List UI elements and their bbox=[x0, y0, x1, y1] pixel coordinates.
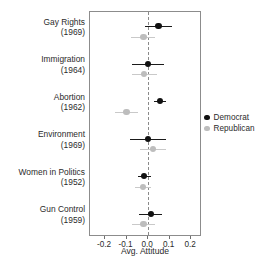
legend-marker-republican bbox=[204, 126, 210, 132]
legend: Democrat Republican bbox=[204, 112, 255, 134]
x-tick-1 bbox=[126, 236, 127, 239]
category-name: Women in Politics bbox=[19, 167, 85, 177]
category-year: (1969) bbox=[44, 27, 85, 37]
category-label-gay-rights: Gay Rights(1969) bbox=[44, 17, 85, 38]
category-year: (1964) bbox=[41, 65, 85, 75]
x-axis-label: Avg. Attitude bbox=[89, 246, 201, 256]
x-tick-0 bbox=[104, 236, 105, 239]
category-name: Immigration bbox=[41, 54, 85, 64]
plot-area bbox=[89, 11, 201, 236]
category-label-women-in-politics: Women in Politics(1952) bbox=[19, 167, 85, 188]
legend-marker-democrat bbox=[204, 115, 210, 121]
data-point-democrat-5[interactable] bbox=[148, 211, 154, 217]
category-label-environment: Environment(1969) bbox=[38, 129, 85, 150]
category-year: (1962) bbox=[54, 102, 85, 112]
category-year: (1952) bbox=[19, 177, 85, 187]
data-point-republican-2[interactable] bbox=[123, 109, 129, 115]
data-point-republican-0[interactable] bbox=[140, 34, 146, 40]
x-tick-4 bbox=[190, 236, 191, 239]
data-point-democrat-3[interactable] bbox=[145, 136, 151, 142]
data-point-democrat-4[interactable] bbox=[141, 173, 147, 179]
category-year: (1969) bbox=[38, 140, 85, 150]
data-point-republican-4[interactable] bbox=[140, 184, 146, 190]
zero-reference-line bbox=[148, 12, 149, 235]
category-name: Abortion bbox=[54, 92, 85, 102]
category-name: Environment bbox=[38, 129, 85, 139]
category-label-gun-control: Gun Control(1959) bbox=[40, 204, 85, 225]
data-point-democrat-1[interactable] bbox=[145, 61, 151, 67]
data-point-democrat-0[interactable] bbox=[155, 23, 161, 29]
x-tick-3 bbox=[169, 236, 170, 239]
category-label-abortion: Abortion(1962) bbox=[54, 92, 85, 113]
data-point-democrat-2[interactable] bbox=[157, 98, 163, 104]
legend-label-republican: Republican bbox=[214, 123, 255, 134]
category-year: (1959) bbox=[40, 215, 85, 225]
category-label-immigration: Immigration(1964) bbox=[41, 54, 85, 75]
x-tick-2 bbox=[147, 236, 148, 239]
category-name: Gun Control bbox=[40, 204, 85, 214]
data-point-republican-5[interactable] bbox=[140, 221, 146, 227]
legend-item-republican[interactable]: Republican bbox=[204, 123, 255, 134]
data-point-republican-3[interactable] bbox=[150, 146, 156, 152]
forest-plot-figure: Gay Rights(1969)Immigration(1964)Abortio… bbox=[0, 0, 275, 275]
category-name: Gay Rights bbox=[44, 17, 85, 27]
legend-item-democrat[interactable]: Democrat bbox=[204, 112, 255, 123]
data-point-republican-1[interactable] bbox=[141, 71, 147, 77]
legend-label-democrat: Democrat bbox=[214, 112, 250, 123]
